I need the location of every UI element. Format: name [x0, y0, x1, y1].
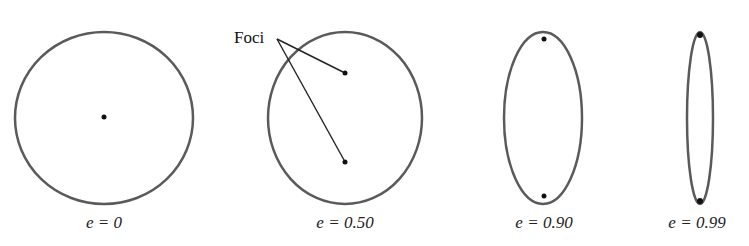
eccentricity-diagram: e = 0 e = 0.50 Foci e = 0.90 e = 0. [0, 0, 749, 246]
diagram-svg: e = 0 e = 0.50 Foci e = 0.90 e = 0. [0, 0, 749, 246]
foci-annotation: Foci [234, 28, 344, 160]
focus-point [542, 194, 547, 199]
focus-point [697, 32, 703, 38]
focus-point [343, 160, 348, 165]
ellipse-outline [268, 32, 422, 204]
ellipse-e0: e = 0 [15, 32, 193, 232]
foci-label: Foci [234, 28, 265, 47]
eccentricity-label: e = 0.99 [668, 213, 726, 232]
focus-point [343, 71, 348, 76]
focus-point [542, 37, 547, 42]
focus-point [697, 198, 703, 204]
eccentricity-label: e = 0 [86, 213, 123, 232]
ellipse-e099: e = 0.99 [668, 32, 726, 232]
ellipse-outline [687, 32, 713, 204]
eccentricity-label: e = 0.50 [316, 213, 374, 232]
focus-point [102, 115, 107, 120]
ellipse-e050: e = 0.50 [268, 32, 422, 232]
ellipse-outline [504, 32, 582, 204]
eccentricity-label: e = 0.90 [515, 213, 573, 232]
leader-line [277, 39, 344, 160]
ellipse-e090: e = 0.90 [504, 32, 582, 232]
